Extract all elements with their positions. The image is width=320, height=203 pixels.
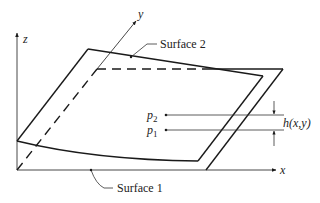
surface-2-right-edge	[198, 76, 263, 161]
y-axis	[97, 21, 136, 69]
surface-2-front-edge	[17, 141, 198, 161]
surface-1-left-edge-hidden	[17, 69, 97, 170]
gap-label: h(x,y)	[283, 116, 311, 130]
surface-1-callout: Surface 1	[90, 169, 163, 195]
surface-1-leader	[91, 170, 113, 188]
point-p1: p1	[146, 123, 284, 139]
surface-2-label: Surface 2	[160, 37, 206, 51]
axes: z x y	[17, 7, 286, 177]
surface-2-back-edge	[88, 49, 263, 76]
p1-label: p1	[146, 123, 158, 139]
y-axis-label: y	[137, 7, 144, 21]
gap-dimension: h(x,y)	[274, 101, 311, 146]
z-axis-label: z	[22, 32, 28, 46]
surface-2-left-edge	[17, 49, 88, 141]
surface-1-label: Surface 1	[117, 181, 163, 195]
surface-2-leader	[131, 44, 157, 57]
two-surface-diagram: z x y Surface 2 Surface 1 p2 p1	[0, 0, 320, 203]
surface-1-right-edge	[206, 69, 283, 170]
surface-2-callout: Surface 2	[130, 37, 206, 58]
p2-label: p2	[146, 108, 158, 124]
x-axis-label: x	[279, 163, 286, 177]
point-p2: p2	[146, 108, 284, 124]
